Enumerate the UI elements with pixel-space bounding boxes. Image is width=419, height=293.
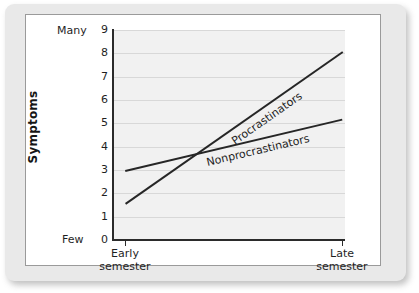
x-category-early-line1: Early [80, 247, 170, 260]
line-chart: 9876543210 Many Few Symptoms Early semes… [0, 0, 419, 293]
y-tick-4: 4 [90, 141, 108, 152]
x-axis [112, 239, 345, 241]
y-tick-label-3: 3 [94, 164, 108, 175]
gridline-7 [114, 77, 345, 78]
y-tick-label-6: 6 [94, 94, 108, 105]
y-tick-8: 8 [90, 47, 108, 58]
x-category-early: Early semester [80, 247, 170, 273]
gridline-8 [114, 53, 345, 54]
y-tick-label-4: 4 [94, 141, 108, 152]
x-category-late: Late semester [297, 247, 387, 273]
y-tick-7: 7 [90, 71, 108, 82]
gridline-2 [114, 193, 345, 194]
plot-background [114, 30, 345, 240]
y-axis-high-label: Many [57, 25, 87, 36]
y-tick-label-2: 2 [94, 187, 108, 198]
screenshot-root: 9876543210 Many Few Symptoms Early semes… [0, 0, 419, 293]
y-tick-label-9: 9 [94, 24, 108, 35]
y-axis-title: Symptoms [26, 72, 40, 182]
y-tick-label-5: 5 [94, 117, 108, 128]
y-axis-low-label: Few [62, 234, 84, 245]
gridline-6 [114, 100, 345, 101]
y-tick-5: 5 [90, 117, 108, 128]
y-tick-label-7: 7 [94, 71, 108, 82]
gridline-5 [114, 123, 345, 124]
y-tick-2: 2 [90, 187, 108, 198]
y-tick-1: 1 [90, 211, 108, 222]
gridline-3 [114, 170, 345, 171]
y-tick-9: 9 [90, 24, 108, 35]
y-tick-3: 3 [90, 164, 108, 175]
y-axis [112, 29, 114, 241]
gridline-9 [114, 30, 345, 31]
y-tick-0: 0 [90, 234, 108, 245]
x-category-late-line1: Late [297, 247, 387, 260]
x-tick-early [125, 241, 126, 246]
y-tick-6: 6 [90, 94, 108, 105]
gridline-1 [114, 217, 345, 218]
y-tick-label-8: 8 [94, 47, 108, 58]
y-tick-label-1: 1 [94, 211, 108, 222]
x-category-late-line2: semester [297, 260, 387, 273]
x-tick-late [342, 241, 343, 246]
y-tick-label-0: 0 [94, 234, 108, 245]
x-category-early-line2: semester [80, 260, 170, 273]
